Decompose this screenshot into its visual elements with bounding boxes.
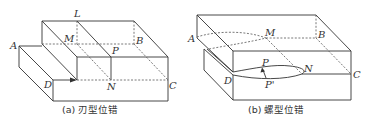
label-D: D xyxy=(223,75,232,86)
label-M: M xyxy=(264,27,276,38)
slip-direction-arrowhead xyxy=(70,78,77,83)
lower-slab-left-face xyxy=(19,46,168,101)
hidden-B-C xyxy=(316,38,351,74)
label-A: A xyxy=(9,40,17,51)
panel-b-screw-dislocation: A M B P N D P' C (b) 螺型位错 xyxy=(187,15,361,115)
hidden-A-M-curve-lower xyxy=(209,38,266,49)
caption-b: (b) 螺型位错 xyxy=(248,104,304,115)
label-N: N xyxy=(303,63,314,74)
label-L: L xyxy=(73,8,81,19)
label-B: B xyxy=(317,29,325,40)
displaced-surface-lower xyxy=(233,74,302,79)
label-P-prime: P' xyxy=(264,79,274,90)
label-C: C xyxy=(353,69,361,80)
panel-a-edge-dislocation: L M A B P D N C (a) 刃型位错 xyxy=(9,8,177,115)
label-P: P xyxy=(111,45,119,56)
lower-block-left-top-edge-2 xyxy=(207,49,233,72)
hidden-M-N xyxy=(266,38,302,74)
label-B: B xyxy=(135,35,143,46)
lower-slab-A-diagonal xyxy=(19,46,53,80)
hidden-M-N xyxy=(77,44,111,80)
label-C: C xyxy=(169,80,177,91)
upper-block-left-face xyxy=(197,15,233,72)
label-M: M xyxy=(63,33,75,44)
caption-a: (a) 刃型位错 xyxy=(62,104,118,115)
label-N: N xyxy=(106,81,117,92)
displaced-surface-upper xyxy=(233,65,351,74)
label-D: D xyxy=(43,79,52,90)
lower-block-left-top-edge-1 xyxy=(204,49,233,75)
hidden-B-C xyxy=(134,44,168,80)
hidden-A-M-curve-upper xyxy=(197,32,266,38)
dislocation-diagram: L M A B P D N C (a) 刃型位错 A xyxy=(0,0,368,129)
label-A: A xyxy=(187,33,195,44)
label-P: P xyxy=(261,57,269,68)
burgers-arrowhead xyxy=(261,68,266,73)
upper-block-L-diagonal xyxy=(77,21,111,57)
